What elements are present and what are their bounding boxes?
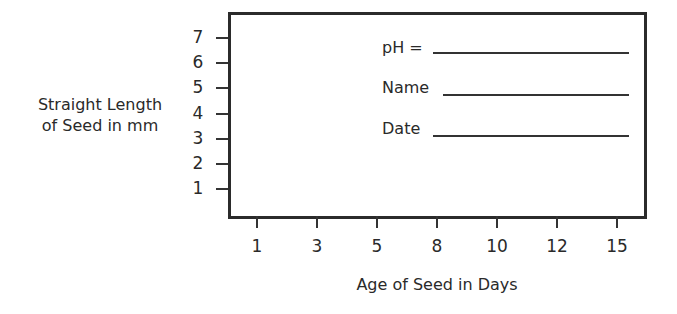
x-tick-mark — [496, 216, 498, 228]
y-axis-title: Straight Length of Seed in mm — [20, 94, 180, 136]
y-axis-title-line1: Straight Length — [20, 94, 180, 115]
y-tick-label: 2 — [188, 153, 208, 173]
y-tick-mark — [216, 138, 228, 140]
y-tick-label: 5 — [188, 77, 208, 97]
y-axis-title-line2: of Seed in mm — [20, 115, 180, 136]
x-tick-label: 12 — [537, 236, 577, 256]
ph-label: pH = — [382, 38, 423, 58]
y-tick-label: 3 — [188, 128, 208, 148]
x-tick-mark — [376, 216, 378, 228]
y-tick-mark — [216, 62, 228, 64]
y-tick-mark — [216, 37, 228, 39]
plot-area — [228, 12, 647, 219]
x-tick-label: 10 — [477, 236, 517, 256]
x-axis-title: Age of Seed in Days — [317, 275, 557, 294]
x-tick-mark — [436, 216, 438, 228]
x-tick-label: 3 — [297, 236, 337, 256]
date-label: Date — [382, 119, 420, 139]
y-tick-label: 6 — [188, 52, 208, 72]
y-tick-mark — [216, 188, 228, 190]
x-tick-mark — [316, 216, 318, 228]
x-tick-label: 15 — [597, 236, 637, 256]
date-input-line[interactable] — [433, 135, 629, 137]
x-tick-mark — [556, 216, 558, 228]
x-tick-label: 8 — [417, 236, 457, 256]
ph-input-line[interactable] — [433, 52, 629, 54]
y-tick-mark — [216, 163, 228, 165]
x-tick-mark — [256, 216, 258, 228]
y-tick-mark — [216, 87, 228, 89]
name-input-line[interactable] — [443, 94, 629, 96]
x-tick-label: 1 — [237, 236, 277, 256]
y-tick-label: 4 — [188, 103, 208, 123]
x-tick-label: 5 — [357, 236, 397, 256]
y-tick-label: 1 — [188, 178, 208, 198]
y-tick-label: 7 — [188, 27, 208, 47]
x-tick-mark — [616, 216, 618, 228]
name-label: Name — [382, 78, 429, 98]
y-tick-mark — [216, 113, 228, 115]
